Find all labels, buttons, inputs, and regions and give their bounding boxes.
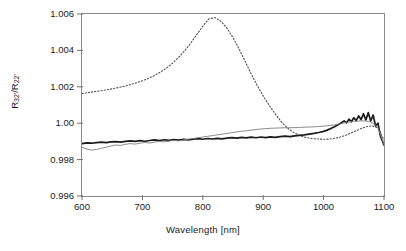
y-axis-title-sub1: 32' [13,93,20,102]
y-tick-label-5: 1.006 [18,9,74,19]
x-tick-label-2: 800 [181,202,225,212]
y-axis-title-mid: /R [9,83,20,93]
x-tick-label-3: 900 [241,202,285,212]
x-tick-label-1: 700 [120,202,164,212]
y-tick-label-1: 0.998 [18,155,74,165]
y-axis-title-sub2: 22' [13,74,20,83]
y-tick-label-0: 0.996 [18,191,74,201]
x-tick-label-4: 1000 [302,202,346,212]
chart-figure: 0.9960.9981.001.0021.0041.006 6007008009… [0,0,406,251]
x-tick-label-0: 600 [60,202,104,212]
y-tick-label-3: 1.002 [18,82,74,92]
y-axis-title-base: R [9,102,20,109]
y-tick-label-2: 1.00 [18,118,74,128]
x-tick-label-5: 1100 [362,202,406,212]
y-tick-label-4: 1.004 [18,45,74,55]
x-axis-title: Wavelength [nm] [0,224,406,235]
y-axis-title: R32'/R22' [9,42,20,142]
